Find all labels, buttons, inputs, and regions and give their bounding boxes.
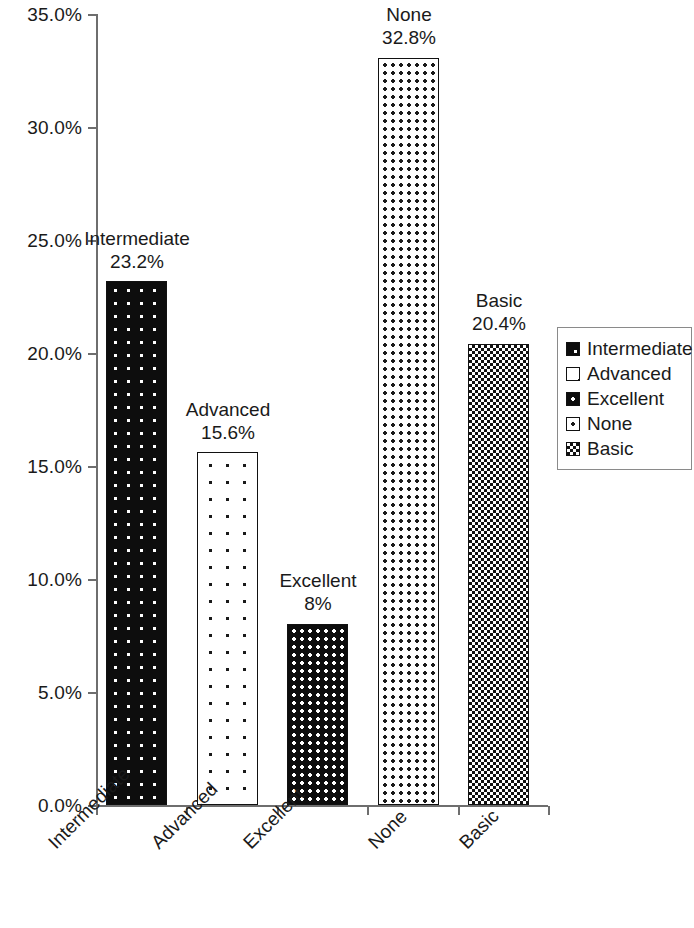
legend-label-basic: Basic (587, 439, 633, 458)
x-axis-line (96, 805, 548, 807)
bar-intermediate (106, 281, 167, 805)
y-tick-label-20: 20.0% (27, 343, 82, 365)
data-label-none-name: None (329, 3, 489, 26)
y-tick-label-10: 10.0% (27, 569, 82, 591)
legend-swatch-none-icon (566, 417, 580, 431)
legend-item-basic: Basic (566, 436, 685, 461)
data-label-intermediate: Intermediate 23.2% (57, 227, 217, 273)
legend-swatch-excellent-icon (566, 392, 580, 406)
legend-item-excellent: Excellent (566, 386, 685, 411)
y-tick-mark-10 (88, 579, 97, 581)
legend-label-none: None (587, 414, 632, 433)
y-tick-mark-30 (88, 127, 97, 129)
y-tick-label-35: 35.0% (27, 4, 82, 26)
bar-advanced (197, 452, 258, 805)
legend-swatch-advanced-icon (566, 367, 580, 381)
data-label-excellent-name: Excellent (238, 569, 398, 592)
legend-label-excellent: Excellent (587, 389, 664, 408)
legend-item-none: None (566, 411, 685, 436)
data-label-basic-value: 20.4% (419, 312, 579, 335)
x-tick-mark-3 (367, 806, 369, 815)
data-label-basic-name: Basic (419, 289, 579, 312)
data-label-basic: Basic 20.4% (419, 289, 579, 335)
y-tick-label-30: 30.0% (27, 117, 82, 139)
bar-chart: 0.0% 5.0% 10.0% 15.0% 20.0% 25.0% 30.0% … (0, 0, 694, 928)
y-tick-label-5: 5.0% (38, 682, 82, 704)
data-label-none-value: 32.8% (329, 26, 489, 49)
data-label-intermediate-value: 23.2% (57, 250, 217, 273)
y-tick-mark-35 (88, 14, 97, 16)
data-label-none: None 32.8% (329, 3, 489, 49)
legend-item-advanced: Advanced (566, 361, 685, 386)
legend-item-intermediate: Intermediate (566, 336, 685, 361)
bar-basic (468, 344, 529, 805)
data-label-excellent-value: 8% (238, 592, 398, 615)
legend-label-intermediate: Intermediate (587, 339, 693, 358)
bar-none (378, 58, 439, 805)
x-axis-label-none: None (364, 806, 412, 854)
data-label-advanced: Advanced 15.6% (148, 398, 308, 444)
y-tick-mark-5 (88, 692, 97, 694)
y-tick-mark-20 (88, 353, 97, 355)
x-tick-mark-4 (458, 806, 460, 815)
bar-excellent (287, 624, 348, 805)
chart-legend: Intermediate Advanced Excellent None Bas… (557, 327, 692, 470)
legend-swatch-basic-icon (566, 442, 580, 456)
data-label-excellent: Excellent 8% (238, 569, 398, 615)
data-label-intermediate-name: Intermediate (57, 227, 217, 250)
y-tick-mark-15 (88, 466, 97, 468)
legend-swatch-intermediate-icon (566, 342, 580, 356)
data-label-advanced-value: 15.6% (148, 421, 308, 444)
legend-label-advanced: Advanced (587, 364, 672, 383)
y-axis-line (96, 14, 98, 806)
x-tick-mark-5 (548, 806, 550, 815)
y-tick-label-15: 15.0% (27, 456, 82, 478)
x-axis-label-basic: Basic (455, 805, 503, 853)
data-label-advanced-name: Advanced (148, 398, 308, 421)
